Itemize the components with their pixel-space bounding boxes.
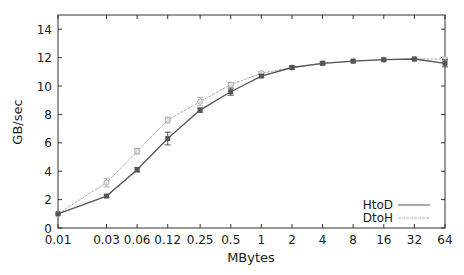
x-tick-label: 8	[349, 233, 357, 247]
x-tick-label: 32	[407, 233, 422, 247]
legend-label-htod: HtoD	[363, 198, 393, 212]
data-point	[198, 108, 203, 113]
x-tick-label: 64	[437, 233, 452, 247]
series-layer	[55, 56, 448, 216]
x-tick-label: 0.12	[154, 233, 181, 247]
data-point	[228, 89, 233, 94]
data-point	[165, 136, 170, 141]
series-htod	[56, 57, 449, 217]
x-tick-label: 0.01	[45, 233, 72, 247]
data-point	[104, 180, 109, 185]
y-tick-label: 8	[44, 108, 52, 122]
data-point	[135, 149, 140, 154]
data-point	[381, 57, 386, 62]
x-tick-label: 0.5	[221, 233, 240, 247]
x-axis-title: MBytes	[227, 250, 275, 265]
data-point	[289, 65, 294, 70]
data-point	[198, 99, 203, 104]
y-axis-title: GB/sec	[10, 99, 25, 144]
data-point	[104, 194, 109, 199]
y-tick-label: 6	[44, 136, 52, 150]
chart: 02468101214 0.010.030.060.120.250.512481…	[0, 0, 464, 275]
x-tick-label: 4	[319, 233, 327, 247]
data-point	[259, 74, 264, 79]
y-tick-label: 4	[44, 165, 52, 179]
y-tick-label: 14	[37, 23, 52, 37]
legend-label-dtoh: DtoH	[363, 211, 393, 225]
y-tick-label: 2	[44, 193, 52, 207]
data-point	[228, 82, 233, 87]
x-tick-label: 0.25	[187, 233, 214, 247]
data-point	[351, 59, 356, 64]
plot-border	[58, 15, 445, 228]
data-point	[165, 117, 170, 122]
x-tick-label: 1	[258, 233, 266, 247]
legend: HtoD DtoH	[363, 198, 430, 225]
data-point	[320, 61, 325, 66]
x-tick-label: 0.03	[93, 233, 120, 247]
data-point	[443, 61, 448, 66]
x-tick-label: 16	[376, 233, 391, 247]
y-tick-label: 10	[37, 80, 52, 94]
data-point	[135, 167, 140, 172]
x-tick-label: 0.06	[124, 233, 151, 247]
plot-frame	[58, 15, 445, 228]
data-point	[56, 211, 61, 216]
y-tick-label: 12	[37, 51, 52, 65]
data-point	[412, 57, 417, 62]
x-tick-label: 2	[288, 233, 296, 247]
